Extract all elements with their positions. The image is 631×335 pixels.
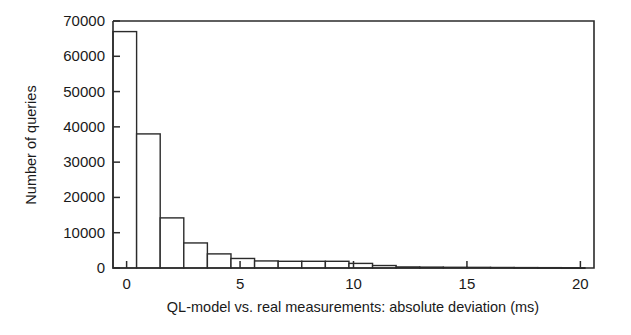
- histogram-bar: [231, 258, 255, 268]
- x-tick-label: 0: [122, 275, 130, 292]
- histogram-bar: [160, 218, 184, 268]
- histogram-figure: 010000200003000040000500006000070000 051…: [0, 0, 631, 335]
- y-tick-label: 50000: [63, 83, 105, 100]
- y-tick-label: 20000: [63, 188, 105, 205]
- x-tick-label: 20: [572, 275, 589, 292]
- histogram-bar: [207, 254, 231, 268]
- x-tick-label: 10: [345, 275, 362, 292]
- axes-group: [113, 21, 594, 268]
- x-tick-labels-group: 05101520: [122, 275, 588, 292]
- histogram-bar: [278, 261, 302, 268]
- bars-group: [113, 32, 585, 269]
- histogram-bar: [302, 261, 326, 268]
- y-tick-label: 70000: [63, 12, 105, 29]
- y-tick-labels-group: 010000200003000040000500006000070000: [63, 12, 105, 276]
- y-tick-label: 10000: [63, 224, 105, 241]
- y-tick-label: 0: [97, 259, 105, 276]
- histogram-bar: [137, 134, 161, 268]
- x-tick-label: 5: [236, 275, 244, 292]
- plot-frame: [113, 21, 594, 268]
- histogram-bar: [255, 261, 279, 268]
- histogram-bar: [325, 261, 349, 268]
- x-axis-title: QL-model vs. real measurements: absolute…: [167, 299, 539, 315]
- y-tick-label: 30000: [63, 153, 105, 170]
- x-tick-label: 15: [459, 275, 476, 292]
- histogram-bar: [184, 243, 208, 268]
- y-axis-title: Number of queries: [23, 85, 39, 204]
- y-tick-label: 60000: [63, 47, 105, 64]
- chart-canvas: 010000200003000040000500006000070000 051…: [0, 0, 631, 335]
- y-tick-label: 40000: [63, 118, 105, 135]
